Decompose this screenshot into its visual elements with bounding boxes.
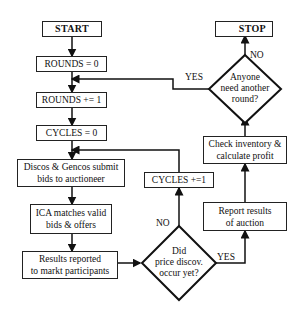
round-decision-line3: round? [213,94,277,105]
rounds-init-node: ROUNDS = 0 [36,56,107,72]
check-inventory-line2: calculate profit [216,150,273,162]
results-reported-node: Results reported to markt participants [22,251,118,279]
ica-match-node: ICA matches valid bids & offers [30,204,112,234]
rounds-init-label: ROUNDS = 0 [45,58,99,70]
submit-bids-node: Discos & Gencos submit bids to auctionee… [17,159,125,187]
submit-bids-line1: Discos & Gencos submit [24,161,119,173]
submit-bids-line2: bids to auctioneer [37,173,105,185]
cycles-inc-node: CYCLES +=1 [144,172,214,188]
price-decision-text: Did price discov. occur yet? [146,246,212,279]
round-decision-line2: need another [213,83,277,94]
report-results-node: Report results of auction [203,202,287,231]
report-results-line2: of auction [226,217,264,229]
report-results-line1: Report results [218,205,271,217]
results-reported-line1: Results reported [39,253,101,265]
cycles-init-node: CYCLES = 0 [36,125,107,141]
price-decision-line3: occur yet? [146,268,212,279]
stop-label: STOP [239,23,266,35]
round-decision-line1: Anyone [213,72,277,83]
price-yes-label: YES [217,252,235,263]
ica-match-line2: bids & offers [46,219,96,231]
price-decision-line2: price discov. [146,257,212,268]
round-no-label: NO [250,50,264,61]
round-decision-text: Anyone need another round? [213,72,277,105]
results-reported-line2: to markt participants [31,265,110,277]
cycles-init-label: CYCLES = 0 [46,127,97,139]
cycles-inc-label: CYCLES +=1 [152,174,206,186]
rounds-inc-label: ROUNDS += 1 [42,94,101,106]
check-inventory-node: Check inventory & calculate profit [203,136,287,164]
ica-match-line1: ICA matches valid [36,207,107,219]
rounds-inc-node: ROUNDS += 1 [36,92,107,108]
stop-node: STOP [215,21,273,37]
check-inventory-line1: Check inventory & [209,138,282,150]
start-label: START [55,23,89,35]
start-node: START [42,21,102,37]
price-decision-line1: Did [146,246,212,257]
round-yes-label: YES [185,72,203,83]
price-no-label: NO [156,218,170,229]
